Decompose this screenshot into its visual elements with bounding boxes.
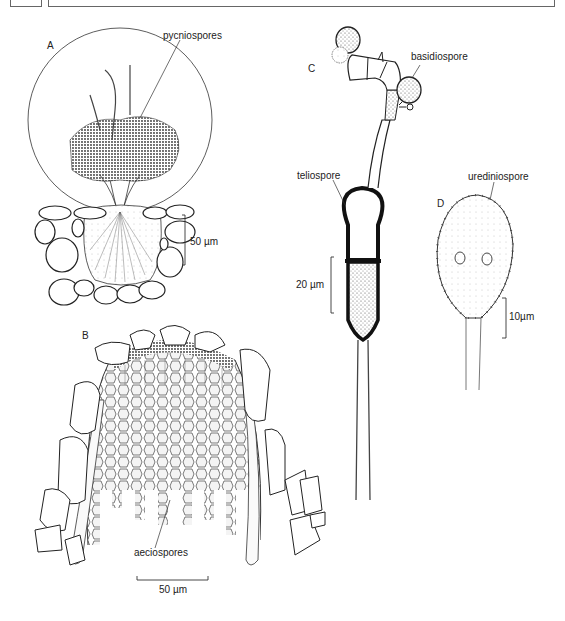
panel-d-scale-label: 10µm — [509, 311, 534, 322]
pycniospores-label: pycniospores — [163, 30, 222, 41]
panel-a-scale-label: 50 µm — [190, 236, 218, 247]
panel-a-letter: A — [47, 40, 54, 51]
panel-c-scale-label: 20 µm — [296, 279, 324, 290]
panel-c-teliospore — [331, 27, 421, 500]
panel-b-letter: B — [82, 330, 89, 341]
panel-b-scale-label: 50 µm — [159, 584, 187, 595]
panel-c-letter: C — [308, 63, 315, 74]
panel-a-pycnium — [28, 28, 212, 305]
panel-d-urediniospore — [437, 182, 513, 390]
teliospore-label: teliospore — [297, 170, 340, 181]
panel-b-aecium — [35, 325, 325, 580]
illustration — [0, 0, 565, 621]
panel-d-letter: D — [437, 198, 444, 209]
basidiospore-label: basidiospore — [411, 51, 468, 62]
urediniospore-label: urediniospore — [468, 171, 529, 182]
aeciospores-label: aeciospores — [134, 547, 188, 558]
